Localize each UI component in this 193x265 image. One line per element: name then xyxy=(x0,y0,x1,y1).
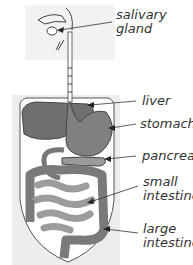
label-stomach: stomach xyxy=(140,117,193,131)
label-salivary-gland: salivary gland xyxy=(116,8,167,36)
label-line: liver xyxy=(142,94,170,108)
label-line: salivary xyxy=(116,8,167,22)
label-line: intestine xyxy=(143,236,193,250)
label-line: stomach xyxy=(140,117,193,131)
label-line: gland xyxy=(116,22,167,36)
label-line: large xyxy=(143,222,193,236)
label-line: pancreas xyxy=(142,149,193,163)
label-small-intestine: small intestine xyxy=(143,175,193,203)
label-line: intestine xyxy=(143,189,193,203)
label-large-intestine: large intestine xyxy=(143,222,193,250)
salivary-gland xyxy=(47,27,57,35)
label-liver: liver xyxy=(142,94,170,108)
label-pancreas: pancreas xyxy=(142,149,193,163)
pancreas xyxy=(62,157,105,166)
label-line: small xyxy=(143,175,193,189)
